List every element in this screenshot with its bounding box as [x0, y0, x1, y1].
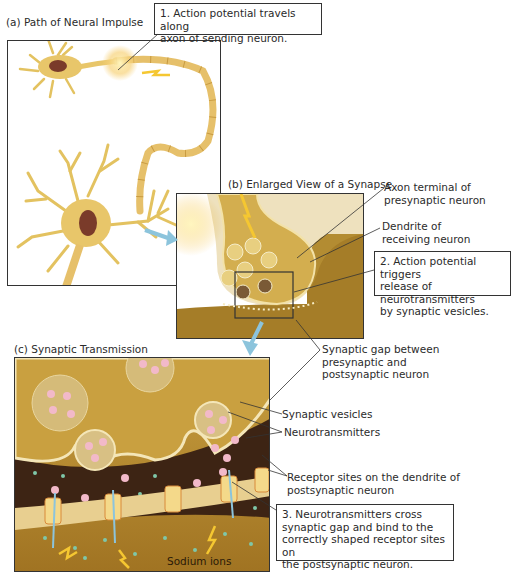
panel-a-title: (a) Path of Neural Impulse: [6, 16, 143, 28]
label-axon-terminal: Axon terminal of presynaptic neuron: [384, 181, 486, 206]
label-dendrite: Dendrite of receiving neuron: [382, 220, 470, 245]
label-synaptic-vesicles: Synaptic vesicles: [282, 408, 372, 421]
panel-c-synaptic-transmission: Sodium ions: [14, 357, 270, 572]
panel-c-title: (c) Synaptic Transmission: [14, 343, 148, 355]
label-sodium-ions: Sodium ions: [167, 555, 231, 568]
panel-b-synapse-view: [176, 193, 364, 339]
synaptic-transmission-illustration: [15, 358, 270, 572]
label-neurotransmitters: Neurotransmitters: [284, 426, 380, 439]
panel-b-title: (b) Enlarged View of a Synapse: [228, 178, 392, 190]
impulse-bolt-icon: [142, 71, 170, 75]
callout-step-1: 1. Action potential travels along axon o…: [154, 3, 322, 35]
callout-step-3: 3. Neurotransmitters cross synaptic gap …: [276, 504, 454, 561]
label-receptor-sites: Receptor sites on the dendrite of postsy…: [287, 471, 460, 496]
label-synaptic-gap: Synaptic gap between presynaptic and pos…: [322, 343, 439, 381]
callout-step-2: 2. Action potential triggers release of …: [374, 251, 511, 296]
synapse-illustration: [177, 194, 364, 339]
